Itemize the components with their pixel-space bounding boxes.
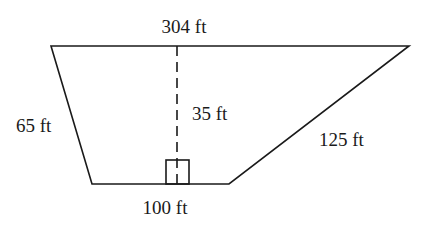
height-label: 35 ft — [192, 103, 228, 124]
top-base-label: 304 ft — [162, 16, 208, 37]
left-side-label: 65 ft — [16, 115, 52, 136]
bottom-base-label: 100 ft — [143, 197, 189, 218]
trapezoid-diagram: 304 ft 65 ft 35 ft 125 ft 100 ft — [0, 0, 424, 240]
trapezoid-outline — [51, 46, 409, 184]
right-side-label: 125 ft — [319, 129, 365, 150]
